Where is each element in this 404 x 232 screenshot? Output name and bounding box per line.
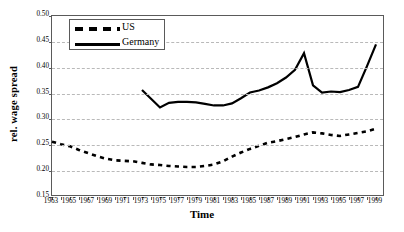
gridline-horizontal	[52, 145, 383, 146]
y-axis-tick-label: 0.30	[23, 114, 49, 121]
chart-figure: rel. wage spread USGermany Time 0.500.45…	[0, 0, 404, 232]
plot-area: USGermany	[51, 15, 384, 196]
y-axis-tick-label: 0.25	[23, 140, 49, 147]
gridline-horizontal	[52, 171, 383, 172]
gridline-horizontal	[52, 119, 383, 120]
y-axis-title: rel. wage spread	[8, 0, 22, 44]
y-axis-tick	[49, 16, 52, 17]
series-line-germany	[142, 44, 376, 107]
legend: USGermany	[69, 19, 165, 50]
x-axis-tick-label: 1999	[358, 197, 392, 205]
y-axis-tick-label: 0.40	[23, 63, 49, 70]
y-axis-tick	[49, 68, 52, 69]
y-axis-tick	[49, 119, 52, 120]
y-axis-tick-label: 0.45	[23, 37, 49, 44]
y-axis-tick	[49, 171, 52, 172]
legend-swatch-us	[75, 27, 120, 31]
y-axis-tick-label: 0.50	[23, 11, 49, 18]
y-axis-tick	[49, 42, 52, 43]
y-axis-title-text: rel. wage spread	[8, 44, 19, 164]
legend-label-germany: Germany	[122, 36, 159, 48]
y-axis-tick	[49, 145, 52, 146]
y-axis-tick	[49, 94, 52, 95]
x-axis-title: Time	[0, 208, 404, 220]
y-axis-tick-label: 0.35	[23, 89, 49, 96]
series-line-us	[52, 129, 376, 167]
legend-item[interactable]: Germany	[70, 35, 164, 50]
legend-swatch-germany	[75, 43, 120, 46]
y-axis-tick-label: 0.20	[23, 166, 49, 173]
gridline-horizontal	[52, 94, 383, 95]
gridline-horizontal	[52, 68, 383, 69]
legend-label-us: US	[122, 21, 135, 33]
legend-item[interactable]: US	[70, 20, 164, 35]
